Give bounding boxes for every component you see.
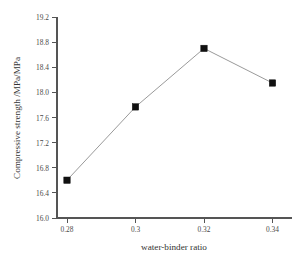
data-point-marker bbox=[64, 177, 70, 183]
y-tick-label: 17.2 bbox=[36, 139, 49, 148]
y-tick-label: 18.8 bbox=[36, 38, 49, 47]
y-tick-label: 18.4 bbox=[36, 63, 49, 72]
y-tick-label: 16.0 bbox=[36, 214, 49, 223]
data-point-marker bbox=[269, 80, 275, 86]
x-tick-label: 0.34 bbox=[266, 225, 279, 234]
y-axis-title: Compressive strength /MPa/MPa bbox=[12, 57, 22, 179]
y-tick-label: 16.8 bbox=[36, 164, 49, 173]
line-chart-canvas: 16.0 16.4 16.8 17.2 17.6 18.0 18.4 18.8 … bbox=[0, 0, 304, 262]
y-tick-label: 17.6 bbox=[36, 114, 49, 123]
y-tick-label: 18.0 bbox=[36, 88, 49, 97]
x-tick-label: 0.3 bbox=[131, 225, 141, 234]
x-tick-label: 0.28 bbox=[61, 225, 74, 234]
y-tick-label: 16.4 bbox=[36, 189, 49, 198]
y-tick-label: 19.2 bbox=[36, 13, 49, 22]
data-point-marker bbox=[132, 104, 138, 110]
data-point-marker bbox=[201, 45, 207, 51]
chart-figure: 16.0 16.4 16.8 17.2 17.6 18.0 18.4 18.8 … bbox=[0, 0, 304, 262]
x-tick-label: 0.32 bbox=[198, 225, 211, 234]
x-axis-title: water-binder ratio bbox=[141, 242, 207, 252]
